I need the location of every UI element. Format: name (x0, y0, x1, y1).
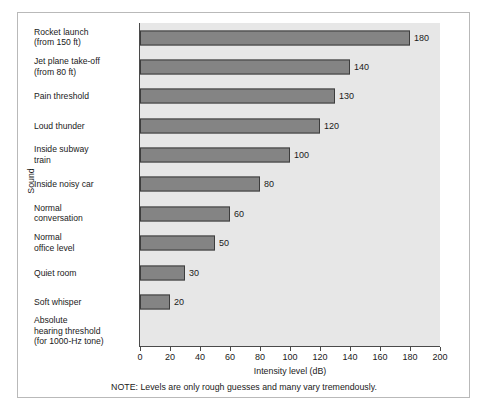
category-label: Normaloffice level (34, 233, 136, 254)
x-tick-mark (290, 347, 291, 351)
category-label: Jet plane take-off(from 80 ft) (34, 56, 136, 77)
bar-row: Soft whisper20 (0, 287, 488, 316)
category-label: Rocket launch(from 150 ft) (34, 27, 136, 48)
category-label: Inside noisy car (34, 179, 136, 190)
category-label: Soft whisper (34, 297, 136, 308)
figure: Rocket launch(from 150 ft)180Jet plane t… (0, 0, 488, 411)
bar (140, 148, 290, 163)
x-tick-label: 40 (195, 352, 205, 362)
bar-value-label: 20 (174, 297, 184, 307)
x-tick-label: 60 (225, 352, 235, 362)
bar (140, 294, 170, 309)
x-tick-label: 140 (342, 352, 357, 362)
bar (140, 265, 185, 280)
category-label: Loud thunder (34, 120, 136, 131)
category-label: Pain threshold (34, 91, 136, 102)
x-tick-mark (320, 347, 321, 351)
x-tick-mark (260, 347, 261, 351)
x-tick-label: 80 (255, 352, 265, 362)
category-label: Normalconversation (34, 203, 136, 224)
bar-row: Pain threshold130 (0, 82, 488, 111)
bar (140, 177, 260, 192)
x-tick-label: 0 (137, 352, 142, 362)
bar-row: Rocket launch(from 150 ft)180 (0, 23, 488, 52)
bar-value-label: 100 (294, 150, 309, 160)
bar-value-label: 130 (339, 91, 354, 101)
category-label: Absolutehearing threshold(for 1000-Hz to… (34, 315, 136, 347)
x-tick-mark (170, 347, 171, 351)
bar-row: Inside noisy car80 (0, 170, 488, 199)
x-tick-label: 100 (282, 352, 297, 362)
bar-row: Inside subwaytrain100 (0, 140, 488, 169)
category-label: Quiet room (34, 267, 136, 278)
x-axis-title: Intensity level (dB) (140, 366, 440, 376)
bar-value-label: 180 (414, 33, 429, 43)
x-tick-label: 20 (165, 352, 175, 362)
bar (140, 206, 230, 221)
bar-value-label: 120 (324, 121, 339, 131)
bar-value-label: 30 (189, 268, 199, 278)
x-tick-mark (140, 347, 141, 351)
category-label: Inside subwaytrain (34, 145, 136, 166)
x-tick-label: 160 (372, 352, 387, 362)
x-tick-label: 180 (402, 352, 417, 362)
bar (140, 118, 320, 133)
bar (140, 89, 335, 104)
x-tick-mark (440, 347, 441, 351)
bar-row: Jet plane take-off(from 80 ft)140 (0, 52, 488, 81)
bar-value-label: 80 (264, 179, 274, 189)
x-tick-mark (350, 347, 351, 351)
bar-row: Absolutehearing threshold(for 1000-Hz to… (0, 317, 488, 346)
bar-value-label: 60 (234, 209, 244, 219)
bar-row: Quiet room30 (0, 258, 488, 287)
chart-note: NOTE: Levels are only rough guesses and … (0, 382, 488, 392)
x-tick-label: 120 (312, 352, 327, 362)
bar (140, 30, 410, 45)
bar (140, 236, 215, 251)
x-tick-mark (410, 347, 411, 351)
x-tick-mark (200, 347, 201, 351)
bar (140, 60, 350, 75)
bar-value-label: 140 (354, 62, 369, 72)
bar-row: Normaloffice level50 (0, 229, 488, 258)
bar-row: Normalconversation60 (0, 199, 488, 228)
bar-value-label: 50 (219, 238, 229, 248)
x-tick-label: 200 (432, 352, 447, 362)
x-tick-mark (380, 347, 381, 351)
x-tick-mark (230, 347, 231, 351)
bar-row: Loud thunder120 (0, 111, 488, 140)
y-axis-title: Sound (26, 168, 36, 193)
